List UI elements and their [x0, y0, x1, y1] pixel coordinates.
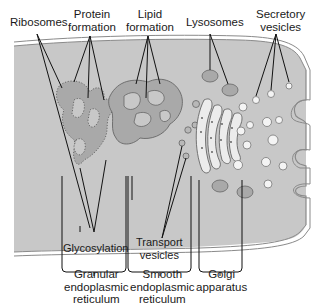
label-protein-formation: Protein formation	[68, 8, 116, 33]
label-golgi: Golgi apparatus	[196, 268, 247, 293]
cell-diagram	[0, 0, 322, 308]
label-ribosomes: Ribosomes	[10, 16, 68, 29]
label-smooth-er: Smooth endoplasmic reticulum	[130, 268, 195, 306]
label-lysosomes: Lysosomes	[186, 16, 244, 29]
label-glycosylation: Glycosylation	[63, 242, 128, 255]
label-granular-er: Granular endoplasmic reticulum	[64, 268, 129, 306]
label-transport-vesicles: Transport vesicles	[136, 236, 183, 261]
label-secretory-vesicles: Secretory vesicles	[256, 8, 305, 33]
cell-body	[14, 35, 310, 256]
label-lipid-formation: Lipid formation	[126, 8, 174, 33]
